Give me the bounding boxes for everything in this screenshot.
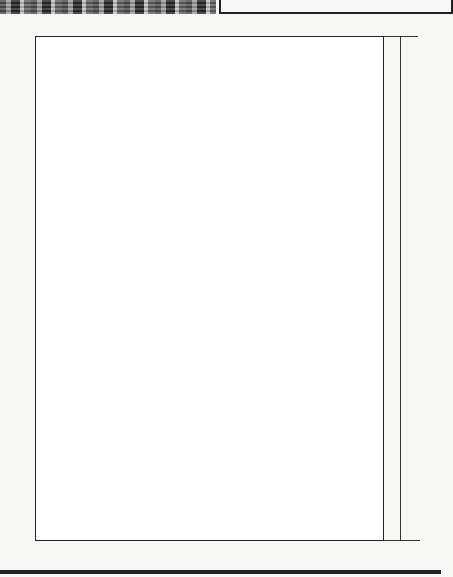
bracket-top-line bbox=[384, 36, 418, 37]
caption-box bbox=[219, 0, 453, 14]
knitted-fabric-photo bbox=[0, 0, 216, 14]
bracket-vertical-line bbox=[400, 36, 401, 541]
bottom-rule bbox=[0, 570, 441, 574]
bracket-bottom-line bbox=[384, 540, 420, 541]
knitting-chart-grid bbox=[35, 36, 384, 541]
